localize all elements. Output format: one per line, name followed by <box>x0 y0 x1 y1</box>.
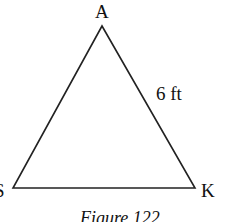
triangle-figure: A S K 6 ft Figure 122 <box>0 0 228 222</box>
triangle-ASK <box>13 26 195 188</box>
figure-caption: Figure 122 <box>80 209 160 222</box>
triangle-shape <box>0 0 228 222</box>
vertex-label-a: A <box>95 2 109 21</box>
vertex-label-k: K <box>201 181 215 200</box>
side-label-ak: 6 ft <box>156 84 182 103</box>
vertex-label-s: S <box>0 181 5 200</box>
